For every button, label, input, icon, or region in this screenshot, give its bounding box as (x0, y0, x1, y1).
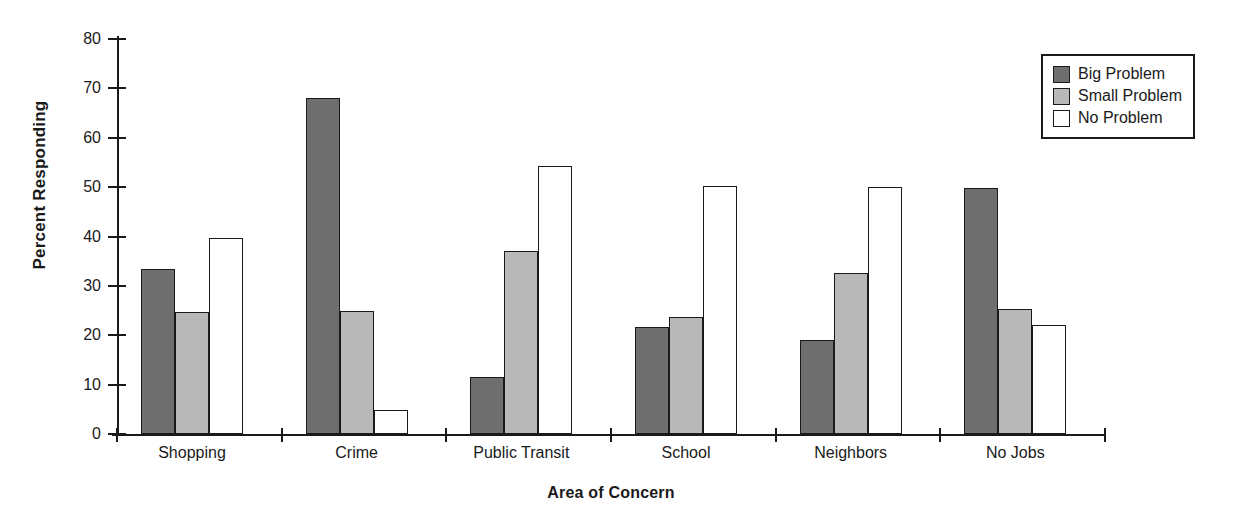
bar (175, 312, 209, 434)
bar (669, 317, 703, 434)
bar (374, 410, 408, 434)
bar (504, 251, 538, 434)
bar (538, 166, 572, 434)
legend-label-big-problem: Big Problem (1078, 65, 1165, 83)
bar (964, 188, 998, 434)
bar (834, 273, 868, 434)
bar (1032, 325, 1066, 434)
legend-label-small-problem: Small Problem (1078, 87, 1182, 105)
x-axis-group-label: No Jobs (915, 444, 1115, 462)
legend-swatch-no-problem (1053, 110, 1070, 127)
legend-item-no-problem[interactable]: No Problem (1053, 107, 1182, 129)
bar (209, 238, 243, 434)
bar (470, 377, 504, 434)
legend-label-no-problem: No Problem (1078, 109, 1162, 127)
legend-item-small-problem[interactable]: Small Problem (1053, 85, 1182, 107)
bar (306, 98, 340, 434)
bar-chart: Percent Responding 01020304050607080 Sho… (0, 0, 1248, 528)
bar (998, 309, 1032, 434)
legend-swatch-small-problem (1053, 88, 1070, 105)
bar (703, 186, 737, 434)
bar (340, 311, 374, 434)
x-axis-title: Area of Concern (117, 484, 1105, 502)
legend: Big Problem Small Problem No Problem (1041, 54, 1195, 139)
legend-item-big-problem[interactable]: Big Problem (1053, 63, 1182, 85)
bar (635, 327, 669, 434)
bar (141, 269, 175, 434)
legend-swatch-big-problem (1053, 66, 1070, 83)
bar (868, 187, 902, 434)
bar (800, 340, 834, 434)
